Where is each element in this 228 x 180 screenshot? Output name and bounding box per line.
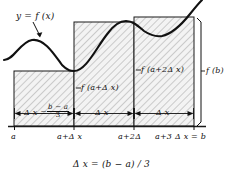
f-b-bracket [197,18,201,126]
riemann-sum-figure: y = f (x) Δ x =b − a3 Δ x Δ x f (a+Δ x) … [0,0,228,180]
height-label-f-b: f (b) [206,67,224,75]
width-label-1-symbol: Δ x = [24,108,47,117]
axis-label-a-plus-dx: a+Δ x [57,133,82,141]
width-label-1-denominator: 3 [47,111,69,119]
height-label-f-a-plus-2dx: f (a+2Δ x) [141,66,184,74]
height-label-f-a-plus-dx: f (a+Δ x) [81,84,119,92]
axis-label-b: a+3 Δ x = b [155,133,206,141]
axis-label-a: a [11,133,16,141]
width-label-3: Δ x [156,109,169,117]
width-label-1: Δ x =b − a3 [24,105,69,120]
curve-label-arrowhead [37,32,43,37]
width-label-1-fraction: b − a3 [47,104,69,119]
axis-label-a-plus-2dx: a+2Δ [118,133,141,141]
curve-label: y = f (x) [16,12,54,21]
width-label-2: Δ x [95,109,108,117]
width-label-1-numerator: b − a [47,104,69,111]
figure-caption: Δ x = (b − a) / 3 [73,160,150,169]
